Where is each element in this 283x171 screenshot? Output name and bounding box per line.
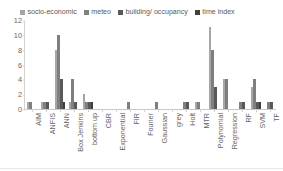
x-axis-tick-label: Exponential	[119, 113, 127, 151]
y-axis-tick-label: 12	[14, 17, 22, 25]
x-axis-tick-label: MTR	[203, 113, 211, 129]
x-axis-tick-mark	[60, 109, 61, 112]
bar[interactable]	[63, 102, 66, 109]
y-axis-tick-mark	[23, 110, 25, 111]
plot-area: 024681012AIMANFISANNBox Jenkinsbottom up…	[24, 21, 276, 110]
x-axis-tick-label: Polynomial	[217, 113, 225, 148]
legend-item[interactable]: socio-economic	[20, 8, 77, 16]
x-axis-tick-mark	[270, 109, 271, 112]
bar[interactable]	[46, 102, 49, 109]
y-axis-tick-label: 8	[18, 47, 22, 55]
x-axis-tick-mark	[242, 109, 243, 112]
bar-group	[137, 21, 151, 109]
legend-item-label: socio-economic	[28, 8, 77, 16]
x-axis-tick-label: ANN	[63, 113, 71, 128]
bar[interactable]	[127, 102, 130, 109]
x-axis-tick-mark	[102, 109, 103, 112]
x-axis-tick-label: FIR	[133, 113, 141, 125]
bar-group	[67, 21, 81, 109]
x-axis-tick-mark	[256, 109, 257, 112]
y-axis-tick-label: 0	[18, 106, 22, 114]
x-axis-tick-label: Gaussian	[161, 113, 169, 143]
legend-swatch-icon	[195, 10, 200, 15]
bar-group	[235, 21, 249, 109]
bar[interactable]	[214, 87, 217, 109]
bar-group	[109, 21, 123, 109]
x-axis-tick-mark	[116, 109, 117, 112]
y-axis-tick-label: 6	[18, 62, 22, 70]
bar-group	[123, 21, 137, 109]
x-axis-tick-label: SVM	[259, 113, 267, 129]
bar[interactable]	[91, 102, 94, 109]
x-axis-tick-label: Holt	[189, 113, 197, 126]
y-axis-tick-label: 10	[14, 32, 22, 40]
bar[interactable]	[186, 102, 189, 109]
x-axis-tick-label: AIM	[35, 113, 43, 126]
bar-group	[81, 21, 95, 109]
bar-group	[25, 21, 39, 109]
bar-group	[193, 21, 207, 109]
bar[interactable]	[29, 102, 32, 109]
legend-item-label: building/ occupancy	[126, 8, 188, 16]
bar-group	[165, 21, 179, 109]
bar[interactable]	[259, 102, 262, 109]
chart-legend: socio-economic meteo building/ occupancy…	[20, 6, 278, 18]
bar-group	[263, 21, 277, 109]
x-axis-tick-mark	[88, 109, 89, 112]
legend-swatch-icon	[20, 10, 25, 15]
x-axis-tick-label: Box Jenkins	[77, 113, 85, 152]
bar[interactable]	[197, 102, 200, 109]
legend-item[interactable]: time index	[195, 8, 235, 16]
x-axis-tick-mark	[74, 109, 75, 112]
x-axis-tick-label: bottom up	[91, 113, 99, 145]
legend-item[interactable]: meteo	[84, 8, 111, 16]
bar-group	[53, 21, 67, 109]
x-axis-tick-mark	[130, 109, 131, 112]
legend-item-label: meteo	[91, 8, 111, 16]
bar[interactable]	[270, 102, 273, 109]
x-axis-tick-label: TF	[273, 113, 281, 122]
x-axis-tick-label: RF	[245, 113, 253, 123]
figure-bottom-rule	[0, 168, 283, 169]
y-axis-tick-label: 2	[18, 91, 22, 99]
bar-group	[179, 21, 193, 109]
bar-group	[221, 21, 235, 109]
x-axis-tick-mark	[186, 109, 187, 112]
x-axis-tick-mark	[46, 109, 47, 112]
bar[interactable]	[225, 79, 228, 109]
x-axis-tick-label: ANFIS	[49, 113, 57, 134]
legend-swatch-icon	[84, 10, 89, 15]
y-axis-tick-label: 4	[18, 76, 22, 84]
x-axis-tick-mark	[32, 109, 33, 112]
x-axis-tick-mark	[200, 109, 201, 112]
plot-inner: 024681012AIMANFISANNBox Jenkinsbottom up…	[25, 21, 276, 109]
bar-chart: socio-economic meteo building/ occupancy…	[0, 0, 283, 171]
bar-group	[151, 21, 165, 109]
legend-swatch-icon	[118, 10, 123, 15]
x-axis-tick-label: grey	[175, 113, 183, 127]
x-axis-tick-mark	[214, 109, 215, 112]
legend-item-label: time index	[202, 8, 234, 16]
x-axis-tick-mark	[144, 109, 145, 112]
bar-group	[39, 21, 53, 109]
bar-group	[95, 21, 109, 109]
legend-item[interactable]: building/ occupancy	[118, 8, 188, 16]
bar[interactable]	[155, 102, 158, 109]
x-axis-tick-label: Regression	[231, 113, 239, 149]
x-axis-tick-mark	[228, 109, 229, 112]
bar[interactable]	[74, 102, 77, 109]
bar[interactable]	[242, 102, 245, 109]
x-axis-tick-label: CBR	[105, 113, 113, 128]
x-axis-tick-mark	[158, 109, 159, 112]
bar-group	[249, 21, 263, 109]
bar-group	[207, 21, 221, 109]
x-axis-tick-label: Fourier	[147, 113, 155, 136]
x-axis-tick-mark	[172, 109, 173, 112]
